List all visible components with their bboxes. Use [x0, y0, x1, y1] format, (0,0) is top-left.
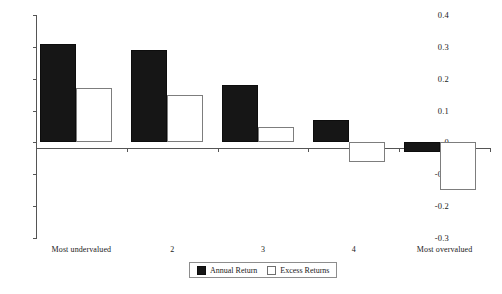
y-tick-mark	[33, 142, 37, 143]
bar-excess-returns	[167, 95, 203, 143]
y-tick-mark	[33, 47, 37, 48]
bar-excess-returns	[258, 127, 294, 143]
y-tick-mark	[33, 174, 37, 175]
bar-annual-return	[40, 44, 76, 143]
y-tick-label: 0.1	[415, 107, 449, 116]
x-axis-category-label: Most undervalued	[36, 245, 127, 254]
y-tick-mark	[33, 238, 37, 239]
y-tick-label: -0.3	[415, 234, 449, 243]
x-tick-mark	[399, 148, 400, 152]
chart-legend: Annual Return Excess Returns	[189, 262, 337, 278]
y-tick-label: 0.2	[415, 75, 449, 84]
bar-excess-returns	[349, 142, 385, 161]
x-tick-mark	[490, 148, 491, 152]
legend-entry-excess-returns: Excess Returns	[267, 266, 329, 275]
y-tick-mark	[33, 15, 37, 16]
y-tick-mark	[33, 79, 37, 80]
plot-area: 0.40.30.20.10-0.1-0.2-0.3 Most undervalu…	[36, 15, 490, 238]
bar-annual-return	[131, 50, 167, 142]
x-tick-mark	[308, 148, 309, 152]
x-axis-category-label: Most overvalued	[399, 245, 490, 254]
legend-swatch-filled-icon	[197, 266, 206, 275]
bar-excess-returns	[76, 88, 112, 142]
y-tick-label: 0.4	[415, 11, 449, 20]
bar-chart: 0.40.30.20.10-0.1-0.2-0.3 Most undervalu…	[0, 0, 502, 294]
bar-annual-return	[404, 142, 440, 152]
x-axis-category-label: 2	[127, 245, 218, 254]
bar-annual-return	[222, 85, 258, 142]
bar-annual-return	[313, 120, 349, 142]
x-tick-mark	[218, 148, 219, 152]
legend-entry-annual-return: Annual Return	[197, 266, 257, 275]
y-tick-mark	[33, 111, 37, 112]
x-tick-mark	[127, 148, 128, 152]
bar-excess-returns	[440, 142, 476, 190]
legend-label-excess-returns: Excess Returns	[280, 266, 329, 275]
y-axis-line	[36, 15, 37, 238]
y-tick-label: 0.3	[415, 43, 449, 52]
y-tick-mark	[33, 206, 37, 207]
x-axis-category-label: 4	[308, 245, 399, 254]
legend-label-annual-return: Annual Return	[210, 266, 257, 275]
x-axis-category-label: 3	[218, 245, 309, 254]
y-tick-label: -0.2	[415, 202, 449, 211]
legend-swatch-hollow-icon	[267, 266, 276, 275]
